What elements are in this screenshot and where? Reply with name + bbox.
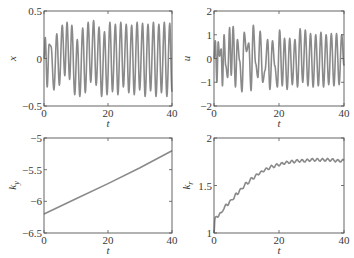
- y-tick-label: 1: [207, 29, 213, 41]
- ky-curve: [44, 151, 172, 214]
- x-tick-label: 0: [211, 107, 217, 119]
- y-tick-label: 0.5: [28, 5, 42, 17]
- x-tick-label: 0: [211, 234, 217, 246]
- y-tick-label: 0: [207, 53, 213, 65]
- x-tick-label: 0: [41, 107, 47, 119]
- y-tick-label: −2: [200, 100, 212, 112]
- y-tick-label: 1: [207, 227, 213, 239]
- x-curve: [44, 21, 172, 97]
- panel-kr: 0204011.52tkr: [180, 132, 350, 256]
- u-curve: [214, 25, 344, 92]
- y-tick-label: 1.5: [198, 180, 212, 192]
- x-tick-label: 40: [339, 234, 351, 246]
- ky-axes-frame: [44, 138, 172, 233]
- y-tick-label: −1: [200, 76, 212, 88]
- kr-curve: [214, 158, 344, 233]
- panel-ky: 02040−6.5−6−5.5−5tky: [6, 132, 178, 256]
- kr-axes-frame: [214, 138, 344, 233]
- y-tick-label: 0: [37, 53, 43, 65]
- x-tick-label: 40: [167, 234, 179, 246]
- y-tick-label: 2: [207, 132, 213, 144]
- y-tick-label: 2: [207, 5, 213, 17]
- ky-ylabel: ky: [6, 181, 21, 190]
- panel-u: 02040−2−1012tu: [180, 5, 350, 129]
- x-tick-label: 40: [167, 107, 179, 119]
- y-tick-label: −5.5: [22, 164, 42, 176]
- figure-2x2-plots: 02040−0.500.5tx 02040−2−1012tu 02040−6.5…: [0, 0, 354, 258]
- u-ylabel: u: [180, 55, 192, 61]
- x-ylabel: x: [6, 56, 18, 62]
- x-tick-label: 0: [41, 234, 47, 246]
- y-tick-label: −6.5: [22, 227, 42, 239]
- x-tick-label: 40: [339, 107, 351, 119]
- kr-ylabel: kr: [180, 181, 195, 190]
- y-tick-label: −5: [30, 132, 42, 144]
- y-tick-label: −6: [30, 195, 42, 207]
- y-tick-label: −0.5: [22, 100, 42, 112]
- panel-x: 02040−0.500.5tx: [6, 5, 178, 129]
